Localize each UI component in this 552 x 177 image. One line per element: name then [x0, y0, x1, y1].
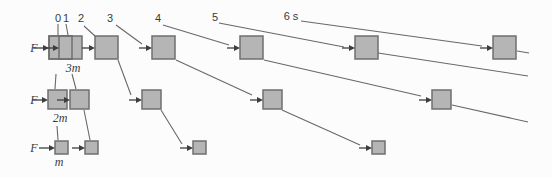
block-row-2m-t2 [142, 90, 161, 109]
block-row-m-t2 [193, 141, 206, 154]
time-label-2: 2 [78, 12, 84, 24]
time-label-1: 1 [63, 12, 69, 24]
diagram-background [0, 0, 552, 177]
block-row-3m-t5 [355, 36, 378, 59]
block-row-2m-t1 [70, 90, 89, 109]
block-row-2m-t4 [432, 90, 451, 109]
block-row-2m-t3 [263, 90, 282, 109]
diagram-canvas: F3mF2mFm0123456 s [0, 0, 552, 177]
block-row-3m-t6 [493, 36, 516, 59]
time-label-4: 4 [155, 12, 161, 24]
mass-label-row-2m: 2m [53, 111, 68, 125]
block-row-3m-t1 [59, 36, 82, 59]
block-row-m-t3 [372, 141, 385, 154]
block-row-3m-t4 [240, 36, 263, 59]
time-label-6: 6 s [284, 10, 299, 22]
mass-label-row-m: m [55, 155, 64, 169]
force-label-row-m: F [29, 141, 38, 155]
block-row-m-t1 [85, 141, 98, 154]
block-row-3m-t3 [152, 36, 175, 59]
time-label-5: 5 [212, 11, 218, 23]
block-row-m-t0 [55, 141, 68, 154]
block-row-3m-t2 [95, 36, 118, 59]
mass-label-row-3m: 3m [65, 61, 81, 75]
time-label-3: 3 [107, 12, 113, 24]
time-label-0: 0 [55, 12, 61, 24]
strobe-motion-diagram: F3mF2mFm0123456 s [0, 0, 552, 177]
